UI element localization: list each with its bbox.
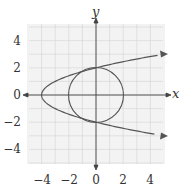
y-tick-label: −2 <box>3 115 21 129</box>
x-tick-label: 0 <box>92 173 100 187</box>
y-axis-arrow-down <box>94 165 98 170</box>
y-tick-label: −4 <box>3 142 21 156</box>
y-tick-label: 0 <box>13 88 21 102</box>
y-axis-label: y <box>91 4 100 19</box>
graph: y x −4 −2 0 2 4 4 2 0 −2 −4 <box>0 0 189 190</box>
x-axis-arrow-right <box>166 93 171 97</box>
x-tick-label: 4 <box>146 173 154 187</box>
x-axis-label: x <box>172 86 180 101</box>
x-tick-label: 2 <box>119 173 127 187</box>
y-tick-label: 4 <box>13 34 21 48</box>
x-tick-labels: −4 −2 0 2 4 <box>33 173 154 187</box>
x-tick-label: −4 <box>33 173 51 187</box>
x-axis-arrow-left <box>23 93 28 97</box>
y-tick-label: 2 <box>13 61 21 75</box>
x-tick-label: −2 <box>60 173 78 187</box>
y-tick-labels: 4 2 0 −2 −4 <box>3 34 21 156</box>
